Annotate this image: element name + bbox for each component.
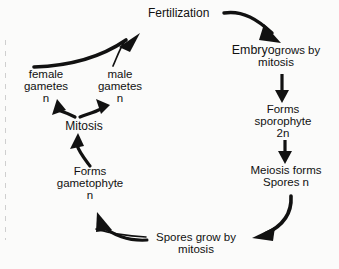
node-male-line3: n — [94, 93, 146, 105]
arrow-spores-grow-to-gametophyte — [96, 212, 147, 240]
node-gametophyte-line3: n — [48, 190, 132, 202]
node-sporophyte-line3: 2n — [246, 128, 320, 140]
arrow-fertilization-to-embryo — [224, 12, 281, 43]
node-meiosis-forms-spores: Meiosis forms Spores n — [240, 165, 332, 189]
node-embryo-inline: grows by — [275, 44, 321, 56]
node-male-gametes: male gametes n — [94, 69, 146, 105]
node-fertilization-label: Fertilization — [148, 7, 209, 19]
node-spores-grow-line2: mitosis — [148, 244, 244, 256]
arrow-gametophyte-to-mitosis — [70, 133, 90, 166]
node-embryo-line2: mitosis — [222, 57, 330, 69]
node-meiosis-line2: Spores n — [240, 177, 332, 189]
node-mitosis: Mitosis — [56, 120, 112, 132]
node-embryo-grows-by-mitosis: Embryogrows by mitosis — [222, 44, 330, 69]
arrow-gametes-to-fertilization — [34, 33, 140, 67]
node-spores-grow-by-mitosis: Spores grow by mitosis — [148, 232, 244, 256]
node-forms-gametophyte: Forms gametophyte n — [48, 166, 132, 202]
arrow-meiosis-to-spores-grow — [252, 196, 291, 241]
node-female-line3: n — [16, 93, 76, 105]
node-fertilization: Fertilization — [148, 7, 209, 19]
arrow-embryo-to-sporophyte — [275, 74, 289, 103]
node-embryo-lead: Embryo — [232, 43, 275, 57]
node-mitosis-label: Mitosis — [56, 120, 112, 132]
life-cycle-diagram: Fertilization Embryogrows by mitosis For… — [0, 0, 339, 269]
arrow-sporophyte-to-meiosis — [278, 140, 292, 164]
node-forms-sporophyte: Forms sporophyte 2n — [246, 104, 320, 140]
node-female-gametes: female gametes n — [16, 69, 76, 105]
